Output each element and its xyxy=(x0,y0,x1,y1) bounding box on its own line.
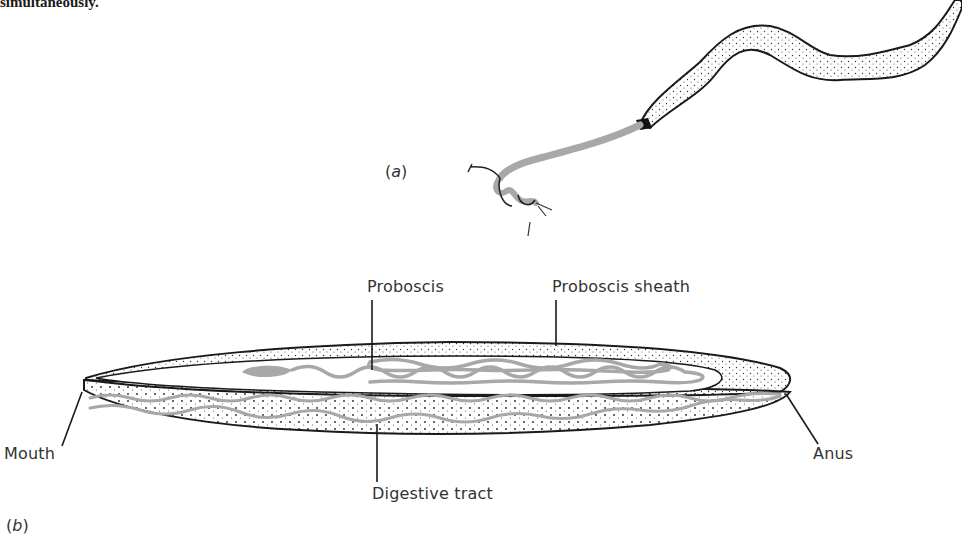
label-proboscis: Proboscis xyxy=(367,277,444,296)
panel-label-a: (a) xyxy=(385,162,407,181)
label-anus: Anus xyxy=(813,444,853,463)
worm-body-b xyxy=(84,342,790,434)
label-digestive-tract: Digestive tract xyxy=(372,484,493,503)
anus-leader xyxy=(786,394,818,444)
label-proboscis-sheath: Proboscis sheath xyxy=(552,277,690,296)
worm-body-a xyxy=(636,0,962,130)
mouth-leader xyxy=(62,392,82,446)
everted-proboscis-a xyxy=(468,125,640,236)
panel-label-b: (b) xyxy=(6,516,29,535)
label-mouth: Mouth xyxy=(4,444,55,463)
